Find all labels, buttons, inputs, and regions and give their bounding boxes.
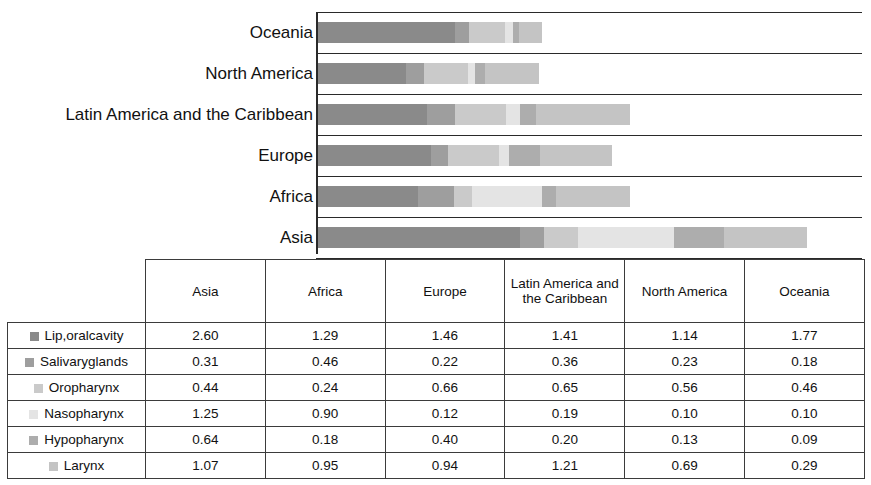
table-cell-value: 0.31 <box>146 349 266 375</box>
chart-segment <box>578 227 675 248</box>
legend-label: Lip,oralcavity <box>45 328 124 343</box>
chart-category-label: Asia <box>280 228 313 248</box>
chart-row-asia: Asia <box>0 217 871 258</box>
data-table-wrapper: AsiaAfricaEuropeLatin America and the Ca… <box>7 259 864 479</box>
table-cell-value: 0.36 <box>505 349 625 375</box>
table-cell-value: 0.40 <box>385 427 505 453</box>
chart-gridline <box>316 176 862 177</box>
table-cell-value: 0.29 <box>744 453 864 479</box>
table-cell-value: 0.20 <box>505 427 625 453</box>
chart-segment <box>513 22 520 43</box>
chart-gridline <box>316 94 862 95</box>
legend-swatch-icon <box>25 358 34 367</box>
legend-label: Salivaryglands <box>40 354 128 369</box>
legend-swatch-icon <box>30 332 39 341</box>
table-cell-value: 1.07 <box>146 453 266 479</box>
stacked-bar-chart: OceaniaNorth AmericaLatin America and th… <box>0 0 871 258</box>
table-cell-value: 0.23 <box>625 349 745 375</box>
table-cell-value: 0.69 <box>625 453 745 479</box>
chart-gridline <box>316 217 862 218</box>
legend-cell: Salivaryglands <box>8 349 146 375</box>
table-cell-value: 0.19 <box>505 401 625 427</box>
table-cell-value: 0.22 <box>385 349 505 375</box>
chart-segment <box>505 22 513 43</box>
table-corner-cell <box>8 260 146 323</box>
chart-segment <box>418 186 454 207</box>
chart-segment <box>455 104 505 125</box>
legend-swatch-icon <box>34 384 43 393</box>
table-cell-value: 0.94 <box>385 453 505 479</box>
chart-segment <box>468 63 476 84</box>
chart-segment <box>424 63 467 84</box>
table-cell-value: 0.64 <box>146 427 266 453</box>
chart-segment <box>318 145 431 166</box>
chart-segment <box>544 227 578 248</box>
chart-segment <box>454 186 473 207</box>
chart-segment <box>556 186 630 207</box>
chart-segment <box>475 63 485 84</box>
chart-bar <box>318 63 539 84</box>
table-cell-value: 0.09 <box>744 427 864 453</box>
table-cell-value: 1.77 <box>744 323 864 349</box>
table-column-header: Asia <box>146 260 266 323</box>
chart-category-label: Europe <box>258 146 313 166</box>
chart-bar <box>318 22 542 43</box>
table-head: AsiaAfricaEuropeLatin America and the Ca… <box>8 260 865 323</box>
chart-segment <box>509 145 540 166</box>
chart-segment <box>520 227 544 248</box>
table-cell-value: 0.12 <box>385 401 505 427</box>
table-cell-value: 0.24 <box>265 375 385 401</box>
chart-segment <box>431 145 448 166</box>
legend-cell: Hypopharynx <box>8 427 146 453</box>
chart-category-label: Oceania <box>250 23 313 43</box>
legend-cell: Larynx <box>8 453 146 479</box>
chart-segment <box>448 145 499 166</box>
table-cell-value: 0.46 <box>744 375 864 401</box>
legend-label: Nasopharynx <box>44 406 124 421</box>
chart-gridline <box>316 135 862 136</box>
chart-segment <box>318 227 520 248</box>
legend-cell: Oropharynx <box>8 375 146 401</box>
table-cell-value: 0.13 <box>625 427 745 453</box>
table-cell-value: 0.65 <box>505 375 625 401</box>
chart-segment <box>540 145 613 166</box>
chart-segment <box>472 186 542 207</box>
chart-segment <box>469 22 505 43</box>
table-cell-value: 1.41 <box>505 323 625 349</box>
table-cell-value: 0.10 <box>744 401 864 427</box>
chart-segment <box>318 63 406 84</box>
table-row: Lip,oralcavity2.601.291.461.411.141.77 <box>8 323 865 349</box>
chart-segment <box>318 186 418 207</box>
table-header-row: AsiaAfricaEuropeLatin America and the Ca… <box>8 260 865 323</box>
table-row: Nasopharynx1.250.900.120.190.100.10 <box>8 401 865 427</box>
legend-label: Oropharynx <box>49 380 120 395</box>
table-cell-value: 0.56 <box>625 375 745 401</box>
table-cell-value: 1.25 <box>146 401 266 427</box>
chart-row-europe: Europe <box>0 135 871 176</box>
table-column-header: Latin America and the Caribbean <box>505 260 625 323</box>
table-cell-value: 0.18 <box>265 427 385 453</box>
chart-bar <box>318 145 612 166</box>
table-cell-value: 0.18 <box>744 349 864 375</box>
table-row: Salivaryglands0.310.460.220.360.230.18 <box>8 349 865 375</box>
chart-segment <box>520 104 536 125</box>
table-cell-value: 0.44 <box>146 375 266 401</box>
table-column-header: North America <box>625 260 745 323</box>
chart-segment <box>455 22 469 43</box>
table-body: Lip,oralcavity2.601.291.461.411.141.77Sa… <box>8 323 865 479</box>
legend-cell: Lip,oralcavity <box>8 323 146 349</box>
table-cell-value: 1.14 <box>625 323 745 349</box>
table-cell-value: 0.95 <box>265 453 385 479</box>
figure-root: OceaniaNorth AmericaLatin America and th… <box>0 0 871 485</box>
chart-segment <box>536 104 630 125</box>
legend-swatch-icon <box>29 410 38 419</box>
legend-label: Hypopharynx <box>44 432 124 447</box>
chart-row-oceania: Oceania <box>0 12 871 53</box>
chart-category-label: Africa <box>270 187 313 207</box>
chart-bar <box>318 227 807 248</box>
chart-segment <box>499 145 508 166</box>
table-cell-value: 0.66 <box>385 375 505 401</box>
chart-gridline <box>316 12 862 13</box>
chart-row-north-america: North America <box>0 53 871 94</box>
data-table: AsiaAfricaEuropeLatin America and the Ca… <box>7 259 865 479</box>
